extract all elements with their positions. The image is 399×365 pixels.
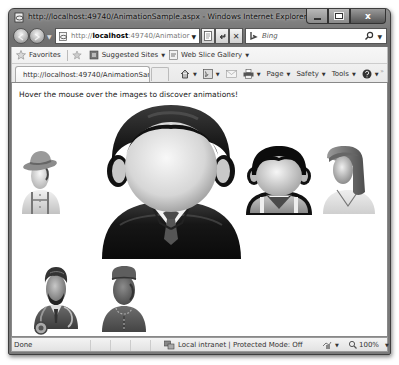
guard-avatar-image[interactable]: [100, 266, 148, 334]
read-mail-button[interactable]: [226, 70, 237, 78]
chevron-down-icon: ▼: [385, 342, 389, 348]
suggested-sites-label: Suggested Sites: [102, 51, 159, 59]
maximize-button[interactable]: [328, 9, 350, 24]
title-bar: http://localhost:49740/AnimationSample.a…: [9, 9, 390, 27]
add-to-favorites-bar-button[interactable]: [72, 50, 85, 60]
favorites-button[interactable]: Favorites: [16, 50, 61, 60]
zoom-level: 100%: [359, 341, 379, 349]
browser-window: http://localhost:49740/AnimationSample.a…: [8, 8, 391, 355]
toolbar-overflow-icon[interactable]: »: [380, 67, 384, 74]
farmer-avatar-image[interactable]: [18, 148, 64, 214]
caption-buttons: x: [306, 9, 386, 24]
print-icon: [243, 69, 254, 79]
forward-button[interactable]: [29, 28, 45, 44]
search-placeholder: Bing: [262, 32, 278, 40]
refresh-icon: [218, 32, 227, 41]
favorites-bar: Favorites Suggested Sites ▼ Web Slice Ga…: [12, 47, 387, 64]
close-button[interactable]: x: [350, 9, 386, 24]
feeds-button[interactable]: ▼: [203, 69, 220, 79]
window-title: http://localhost:49740/AnimationSample.a…: [28, 12, 307, 21]
zone-label: Local intranet | Protected Mode: Off: [178, 341, 303, 349]
minimize-button[interactable]: [306, 9, 328, 24]
ie-page-icon: [14, 12, 25, 23]
chevron-down-icon: ▼: [245, 52, 249, 58]
maximize-icon: [335, 13, 343, 19]
suggested-sites-icon: [89, 50, 99, 60]
status-divider: [150, 340, 151, 351]
home-button[interactable]: ▼: [180, 69, 197, 79]
intranet-icon: [164, 340, 175, 350]
close-icon: x: [365, 11, 371, 21]
chevron-down-icon: ▼: [352, 71, 356, 77]
back-button[interactable]: [13, 28, 29, 44]
command-buttons: ▼ ▼ ▼ Page ▼ Safety: [180, 67, 385, 81]
page-menu-label: Page: [267, 70, 284, 78]
tab-animation-sample[interactable]: http://localhost:49740/AnimationSample.a…: [15, 66, 150, 82]
help-menu[interactable]: ▼: [362, 69, 379, 79]
businessman-avatar-image[interactable]: [100, 105, 243, 259]
security-zone[interactable]: Local intranet | Protected Mode: Off: [164, 340, 303, 350]
refresh-button[interactable]: [215, 28, 229, 44]
home-icon: [180, 69, 190, 79]
page-icon: [59, 32, 68, 41]
woman-avatar-image[interactable]: [319, 146, 377, 214]
status-divider: [130, 340, 131, 351]
bing-icon: [249, 31, 259, 41]
mail-icon: [226, 70, 237, 78]
web-slice-gallery-button[interactable]: Web Slice Gallery ▼: [169, 50, 249, 60]
zoom-level-button[interactable]: 100% ▼: [348, 340, 389, 349]
page-menu[interactable]: Page ▼: [267, 70, 291, 78]
add-favorite-icon: [72, 50, 82, 60]
compatibility-icon: [204, 31, 212, 41]
new-tab-button[interactable]: [151, 67, 169, 81]
suggested-sites-button[interactable]: Suggested Sites ▼: [89, 50, 165, 60]
instructions-text: Hover the mouse over the images to disco…: [19, 90, 238, 99]
status-text: Done: [14, 341, 32, 349]
url-path: :49740/Animatior: [128, 32, 189, 40]
safety-menu[interactable]: Safety ▼: [296, 70, 325, 78]
search-options-dropdown[interactable]: ▼: [377, 33, 382, 40]
url-scheme: http://: [71, 32, 92, 40]
status-bar: Done Local intranet | Protected Mode: Of…: [11, 337, 388, 352]
chevron-down-icon: ▼: [375, 71, 379, 77]
tools-menu-label: Tools: [332, 70, 349, 78]
status-divider: [90, 340, 91, 351]
address-bar[interactable]: http://localhost:49740/Animatior ▼: [55, 28, 200, 44]
chevron-down-icon: ▼: [335, 342, 339, 348]
boy-avatar-image[interactable]: [244, 145, 314, 215]
status-divider: [110, 340, 111, 351]
star-icon: [16, 50, 26, 60]
chevron-down-icon: ▼: [257, 71, 261, 77]
search-icon[interactable]: [364, 31, 374, 41]
add-ons-icon: [322, 340, 332, 350]
chevron-down-icon: ▼: [161, 52, 165, 58]
address-dropdown[interactable]: ▼: [191, 33, 196, 40]
zoom-icon: [348, 340, 357, 349]
url-host: localhost: [92, 32, 128, 40]
forward-arrow-icon: [30, 30, 44, 44]
tools-menu[interactable]: Tools ▼: [332, 70, 356, 78]
add-ons-button[interactable]: ▼: [322, 340, 339, 350]
compatibility-view-button[interactable]: [201, 28, 215, 44]
web-slice-icon: [169, 50, 178, 60]
stop-button[interactable]: ✕: [229, 28, 243, 44]
chevron-down-icon: ▼: [216, 71, 220, 77]
favorites-label: Favorites: [29, 51, 61, 59]
tab-title: http://localhost:49740/AnimationSample.a…: [23, 71, 150, 79]
chevron-down-icon: ▼: [287, 71, 291, 77]
navigation-bar: ▼ http://localhost:49740/Animatior ▼ ✕ B…: [9, 27, 390, 47]
command-bar: http://localhost:49740/AnimationSample.a…: [12, 64, 387, 82]
feeds-icon: [203, 69, 213, 79]
stop-icon: ✕: [233, 32, 240, 41]
web-slice-gallery-label: Web Slice Gallery: [181, 51, 242, 59]
search-box[interactable]: Bing ▼: [245, 28, 387, 44]
safety-menu-label: Safety: [296, 70, 318, 78]
chevron-down-icon: ▼: [193, 71, 197, 77]
doctor-avatar-image[interactable]: [30, 261, 80, 335]
toolbar-area: Favorites Suggested Sites ▼ Web Slice Ga…: [11, 47, 388, 82]
minimize-icon: [314, 18, 321, 20]
print-button[interactable]: ▼: [243, 69, 261, 79]
recent-pages-dropdown[interactable]: ▼: [47, 33, 52, 40]
chevron-down-icon: ▼: [322, 71, 326, 77]
back-arrow-icon: [14, 30, 28, 44]
